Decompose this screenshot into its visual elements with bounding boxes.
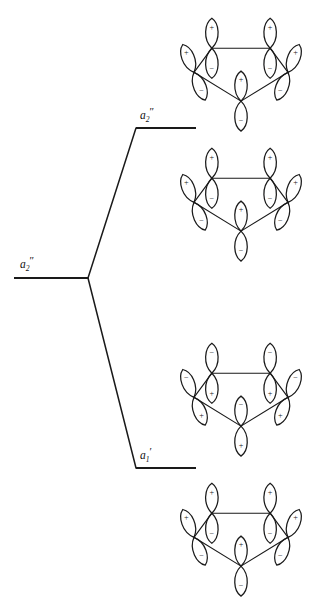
ring-diagram-ring-4: +−+−+−+−+− [177,483,305,596]
lobe-sign-upper: + [268,488,273,497]
p-orbital-bottom: +− [235,71,247,131]
p-orbital-right: +− [271,42,305,102]
lobe-sign-upper: − [268,348,273,357]
lobe-sign-lower: − [239,246,244,255]
lobe-sign-lower: − [210,64,215,73]
lobe-sign-upper: + [210,488,215,497]
lobe-sign-lower: + [268,389,273,398]
lobe-sign-lower: + [278,411,283,420]
diagram-canvas: a2″a2″a1′+−+−+−+−+−+−+−+−+−+−−+−+−+−+−++… [0,0,312,608]
energy-level-label-upper: a2″ [140,105,154,124]
lobe-sign-upper: − [293,373,298,382]
energy-level-label-lower: a1′ [140,445,152,464]
ring-diagram-ring-2: +−+−+−+−+− [177,148,305,261]
lobe-sign-lower: − [278,86,283,95]
lobe-sign-lower: − [199,86,204,95]
lobe-sign-lower: − [268,194,273,203]
lobe-sign-lower: − [210,194,215,203]
p-orbital-bottom: −+ [235,396,247,456]
lobe-sign-lower: − [199,216,204,225]
lobe-sign-lower: − [239,581,244,590]
lobe-sign-upper: + [268,153,273,162]
lobe-sign-upper: − [239,400,244,409]
mo-correlation-diagram: a2″a2″a1′+−+−+−+−+−+−+−+−+−+−−+−+−+−+−++… [0,0,312,608]
p-orbital-left: +− [177,42,211,102]
lobe-sign-lower: − [268,529,273,538]
lobe-sign-lower: − [278,216,283,225]
p-orbital-right: +− [271,172,305,232]
lobe-sign-upper: + [184,178,189,187]
lobe-sign-upper: + [268,23,273,32]
lobe-sign-upper: + [293,513,298,522]
lobe-sign-lower: − [199,551,204,560]
lobe-sign-upper: + [239,205,244,214]
lobe-sign-upper: + [184,513,189,522]
lobe-sign-upper: + [210,153,215,162]
correlation-line-center-to-upper [88,128,136,278]
p-orbital-left: +− [177,172,211,232]
lobe-sign-upper: − [184,373,189,382]
lobe-sign-upper: + [293,178,298,187]
lobe-sign-lower: − [278,551,283,560]
p-orbital-left: −+ [177,367,211,427]
lobe-sign-lower: − [210,529,215,538]
ring-diagram-ring-3: −+−+−+−+−+ [177,343,305,456]
lobe-sign-lower: − [268,64,273,73]
lobe-sign-upper: + [239,75,244,84]
lobe-sign-upper: − [210,348,215,357]
energy-level-label-center: a2″ [20,254,34,273]
lobe-sign-lower: + [239,441,244,450]
lobe-sign-upper: + [210,23,215,32]
lobe-sign-upper: + [293,48,298,57]
p-orbital-left: +− [177,507,211,567]
lobe-sign-lower: + [199,411,204,420]
ring-diagram-ring-1: +−+−+−+−+− [177,18,305,131]
p-orbital-right: −+ [271,367,305,427]
correlation-line-center-to-lower [88,278,136,468]
p-orbital-bottom: +− [235,536,247,596]
p-orbital-bottom: +− [235,201,247,261]
lobe-sign-upper: + [184,48,189,57]
p-orbital-right: +− [271,507,305,567]
lobe-sign-upper: + [239,540,244,549]
lobe-sign-lower: − [239,116,244,125]
lobe-sign-lower: + [210,389,215,398]
